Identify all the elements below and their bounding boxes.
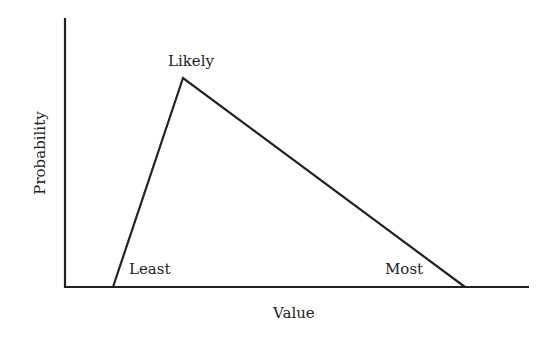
most-label: Most (385, 260, 423, 278)
least-label: Least (129, 260, 171, 278)
x-axis-label: Value (273, 304, 315, 322)
triangle-curve (113, 78, 465, 287)
y-axis-label: Probability (31, 108, 49, 198)
likely-label: Likely (168, 52, 214, 70)
triangular-distribution-diagram (0, 0, 550, 347)
